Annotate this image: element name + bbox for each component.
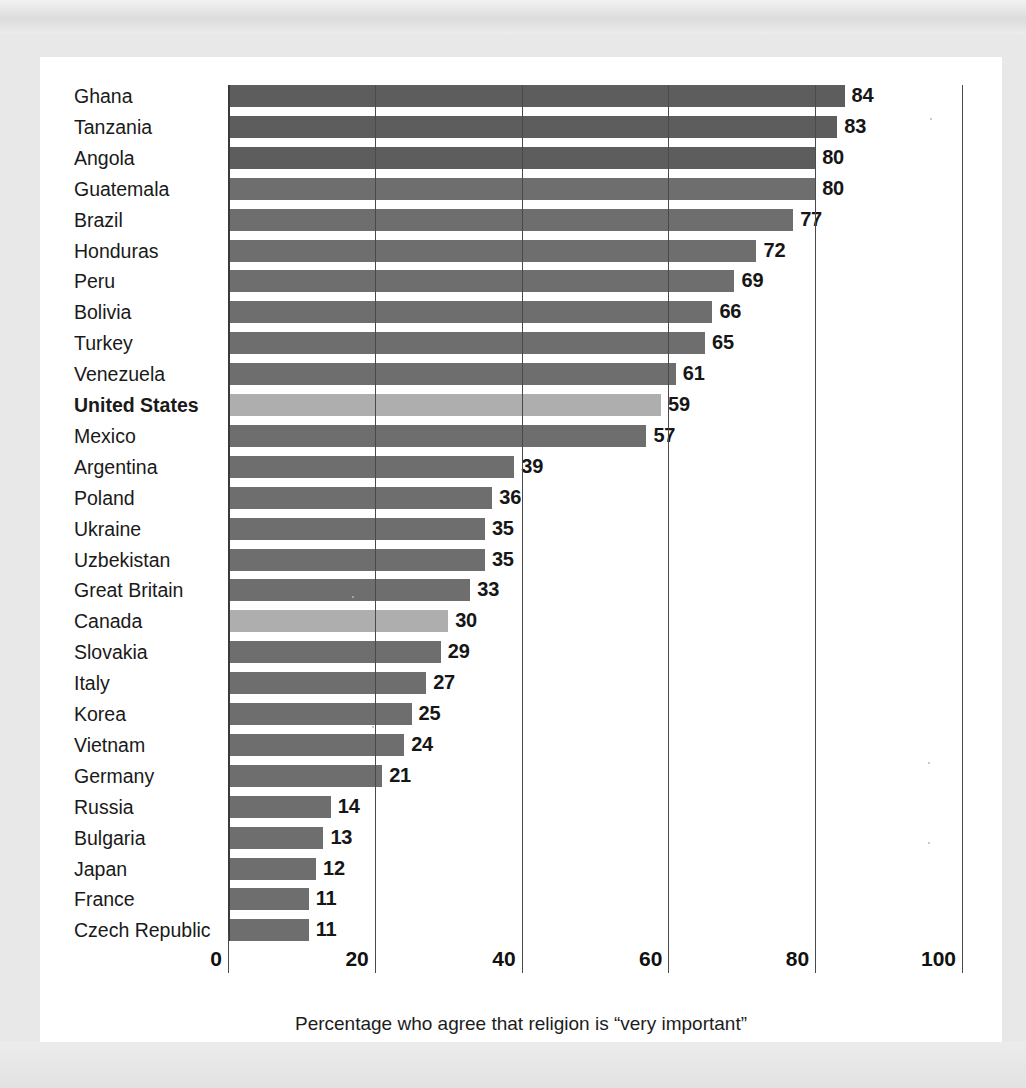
gridline xyxy=(962,85,963,941)
bar-row: 27 xyxy=(228,672,962,694)
bar[interactable] xyxy=(228,827,323,849)
bar-rows: 8483808077726966656159573936353533302927… xyxy=(228,85,962,941)
x-tick-label: 0 xyxy=(210,947,228,971)
bar[interactable] xyxy=(228,919,309,941)
bar-row: 24 xyxy=(228,734,962,756)
bar[interactable] xyxy=(228,487,492,509)
bar-row: 80 xyxy=(228,178,962,200)
bar-value-label: 84 xyxy=(852,84,874,107)
bar-row: 39 xyxy=(228,456,962,478)
bar[interactable] xyxy=(228,610,448,632)
scan-edge-bottom xyxy=(0,1042,1026,1088)
scan-speck xyxy=(928,762,930,764)
bar-row: 57 xyxy=(228,425,962,447)
bar[interactable] xyxy=(228,456,514,478)
category-label: Venezuela xyxy=(74,363,165,385)
bar-row: 29 xyxy=(228,641,962,663)
category-label: Turkey xyxy=(74,332,133,354)
bar-row: 36 xyxy=(228,487,962,509)
category-label: Angola xyxy=(74,147,135,169)
bar[interactable] xyxy=(228,270,734,292)
bar[interactable] xyxy=(228,425,646,447)
category-label: Bolivia xyxy=(74,301,131,323)
bar-value-label: 35 xyxy=(492,517,514,540)
bar-value-label: 72 xyxy=(763,239,785,262)
bar[interactable] xyxy=(228,332,705,354)
bar-row: 59 xyxy=(228,394,962,416)
x-tick-mark xyxy=(962,933,963,973)
bar[interactable] xyxy=(228,796,331,818)
bar-value-label: 69 xyxy=(741,269,763,292)
bar[interactable] xyxy=(228,85,845,107)
bar[interactable] xyxy=(228,394,661,416)
x-axis: 020406080100 xyxy=(228,947,962,987)
bar-value-label: 77 xyxy=(800,208,822,231)
bar-value-label: 25 xyxy=(419,702,441,725)
scan-speck xyxy=(930,118,932,120)
x-tick-mark xyxy=(228,933,229,973)
category-label: Great Britain xyxy=(74,579,183,601)
bar[interactable] xyxy=(228,240,756,262)
category-label: Germany xyxy=(74,765,154,787)
category-label: Honduras xyxy=(74,240,159,262)
bar[interactable] xyxy=(228,734,404,756)
bar-value-label: 24 xyxy=(411,733,433,756)
bar[interactable] xyxy=(228,703,412,725)
x-tick-label: 100 xyxy=(921,947,962,971)
bar-value-label: 66 xyxy=(719,300,741,323)
bar-value-label: 80 xyxy=(822,177,844,200)
bar-value-label: 11 xyxy=(316,887,337,910)
bar-value-label: 21 xyxy=(389,764,411,787)
bar[interactable] xyxy=(228,765,382,787)
category-label: Slovakia xyxy=(74,641,148,663)
gridline xyxy=(375,85,376,941)
bar-value-label: 29 xyxy=(448,640,470,663)
bar[interactable] xyxy=(228,116,837,138)
x-tick-mark xyxy=(522,933,523,973)
bar-row: 30 xyxy=(228,610,962,632)
category-label: Ghana xyxy=(74,85,133,107)
bar-value-label: 61 xyxy=(683,362,705,385)
bar-chart: GhanaTanzaniaAngolaGuatemalaBrazilHondur… xyxy=(40,57,1002,1042)
bar[interactable] xyxy=(228,579,470,601)
bar[interactable] xyxy=(228,672,426,694)
bar-row: 25 xyxy=(228,703,962,725)
category-label: Japan xyxy=(74,858,127,880)
bar-value-label: 30 xyxy=(455,609,477,632)
bar-value-label: 35 xyxy=(492,548,514,571)
bar[interactable] xyxy=(228,301,712,323)
bar[interactable] xyxy=(228,549,485,571)
bar[interactable] xyxy=(228,518,485,540)
category-label: Poland xyxy=(74,487,135,509)
bar-value-label: 39 xyxy=(521,455,543,478)
bar-row: 11 xyxy=(228,888,962,910)
bar-row: 13 xyxy=(228,827,962,849)
bar-row: 83 xyxy=(228,116,962,138)
gridline xyxy=(815,85,816,941)
bar-value-label: 33 xyxy=(477,578,499,601)
x-tick-label: 40 xyxy=(492,947,521,971)
bar[interactable] xyxy=(228,858,316,880)
bar-row: 69 xyxy=(228,270,962,292)
gridline xyxy=(522,85,523,941)
bar[interactable] xyxy=(228,888,309,910)
bar-value-label: 65 xyxy=(712,331,734,354)
bar-value-label: 80 xyxy=(822,146,844,169)
bar-row: 84 xyxy=(228,85,962,107)
bar[interactable] xyxy=(228,209,793,231)
category-label: Tanzania xyxy=(74,116,152,138)
category-label: Argentina xyxy=(74,456,157,478)
bar-row: 33 xyxy=(228,579,962,601)
category-label: Canada xyxy=(74,610,142,632)
category-label: Vietnam xyxy=(74,734,145,756)
category-label: Brazil xyxy=(74,209,123,231)
category-label: Bulgaria xyxy=(74,827,146,849)
category-label: Russia xyxy=(74,796,134,818)
category-label: United States xyxy=(74,394,199,416)
category-label: Ukraine xyxy=(74,518,141,540)
bar[interactable] xyxy=(228,641,441,663)
bar[interactable] xyxy=(228,363,676,385)
category-label: Czech Republic xyxy=(74,919,211,941)
bar-value-label: 13 xyxy=(330,826,352,849)
category-label: Mexico xyxy=(74,425,136,447)
